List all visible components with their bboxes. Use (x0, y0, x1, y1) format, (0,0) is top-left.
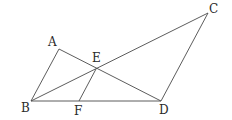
point-label-B: B (21, 101, 30, 115)
segment-CD (161, 13, 208, 101)
geometry-diagram: A B C D E F (0, 0, 232, 120)
point-label-E: E (92, 51, 101, 65)
segment-EF (79, 69, 96, 101)
point-label-A: A (47, 35, 57, 49)
point-label-D: D (159, 103, 169, 117)
segment-BC (31, 13, 208, 101)
segments-group (31, 13, 208, 101)
point-label-C: C (209, 2, 218, 16)
segment-AB (31, 49, 59, 101)
segment-AD (59, 49, 161, 101)
diagram-svg: A B C D E F (0, 0, 232, 120)
point-label-F: F (74, 104, 82, 118)
